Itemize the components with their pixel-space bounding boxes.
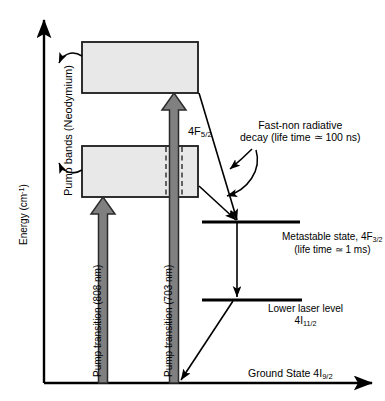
- lower-laser-level-label: Lower laser level4I11/2: [268, 303, 343, 328]
- upper-pump-band: [82, 42, 198, 93]
- pump-transition-808-label: Pump transition (808 nm): [92, 265, 104, 377]
- metastable-state-label: Metastable state, 4F3/2(life time ≃ 1 ms…: [282, 231, 383, 256]
- f52-level-label: 4F5/2: [188, 125, 212, 139]
- diagram-vector-layer: [0, 0, 385, 401]
- energy-level-diagram: Energy (cm-1) Pump bands (Neodymium) Pum…: [0, 0, 385, 401]
- fast-decay-label: Fast-non radiativedecay (life time ≃ 100…: [240, 119, 360, 144]
- lower-pump-band: [82, 146, 198, 197]
- pump-bands-pointer-upper: [59, 53, 82, 63]
- decay-arrow-upper-band: [199, 93, 237, 220]
- decay-caption-pointer-upper: [230, 149, 252, 169]
- y-axis-label: Energy (cm-1): [18, 184, 30, 245]
- relaxation-arrow-to-ground: [181, 301, 233, 380]
- decay-caption-pointer-lower: [227, 150, 257, 196]
- ground-state-label: Ground State 4I9/2: [248, 367, 333, 382]
- pump-bands-label: Pump bands (Neodymium): [62, 65, 75, 196]
- pump-transition-703-label: Pump transition (703 nm): [163, 265, 175, 377]
- decay-arrow-lower-band: [199, 186, 236, 220]
